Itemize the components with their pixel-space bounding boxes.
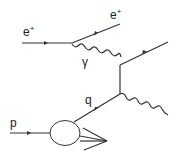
label-e-in: e+ (23, 24, 35, 39)
feynman-diagram: e+ e+ γ q p (0, 0, 181, 158)
arrow-icon (27, 131, 31, 135)
outgoing-boson-line (120, 93, 168, 115)
arrow-icon (94, 107, 99, 111)
arrow-icon (94, 31, 98, 36)
proton-blob (50, 121, 80, 146)
label-e-out: e+ (110, 7, 122, 22)
label-proton: p (10, 116, 17, 130)
photon-line (72, 44, 121, 57)
outgoing-quark-line (120, 42, 168, 65)
arrow-icon (44, 41, 48, 45)
spectator-line (84, 141, 107, 150)
label-photon: γ (82, 55, 88, 69)
label-quark: q (85, 93, 92, 107)
